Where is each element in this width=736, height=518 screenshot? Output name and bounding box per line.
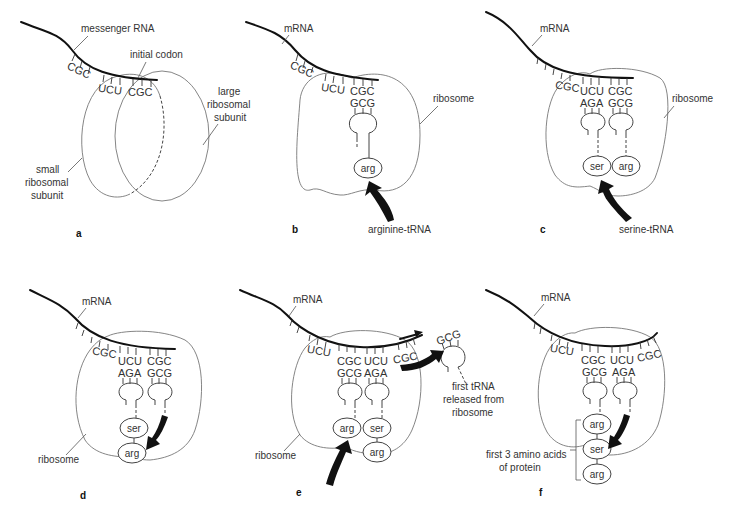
trna-arginine (583, 377, 607, 416)
panel-letter-b: b (292, 224, 298, 235)
transfer-arrow (608, 414, 630, 449)
label-mrna: mRNA (293, 294, 323, 305)
amino-acid-label: ser (370, 423, 385, 434)
incoming-arrow (326, 440, 352, 486)
trna-empty (148, 378, 172, 415)
mrna-strand (240, 290, 422, 347)
label-released-2: released from (443, 394, 504, 405)
label-serine-trna: serine-tRNA (619, 224, 674, 235)
protein-synthesis-diagram: CGC UCU CGC messenger RNA initial codon … (0, 0, 736, 518)
trna-arginine: arg (333, 378, 362, 438)
codon-3: UCU (610, 354, 634, 366)
trna-serine (613, 377, 637, 414)
amino-acid-label: arg (361, 163, 375, 174)
panel-e: UCU CGC UCU CGC GCG AGA arg ser arg (240, 290, 504, 498)
amino-acid-label: ser (590, 161, 605, 172)
label-protein-2: of protein (499, 462, 541, 473)
protein-bracket (570, 420, 581, 480)
label-large-subunit-3: subunit (214, 112, 246, 123)
label-large-subunit-2: ribosomal (207, 99, 250, 110)
anticodon-arg: GCG (147, 367, 172, 379)
incoming-arrow (365, 181, 394, 222)
codon-2: UCU (97, 82, 122, 97)
label-large-subunit-1: large (218, 86, 241, 97)
amino-acid-label: arg (340, 423, 354, 434)
amino-acid-label: arg (370, 447, 384, 458)
label-messenger-rna: messenger RNA (81, 23, 155, 34)
panel-letter-e: e (296, 487, 302, 498)
label-arginine-trna: arginine-tRNA (368, 224, 431, 235)
panel-a: CGC UCU CGC messenger RNA initial codon … (21, 22, 250, 239)
label-protein-1: first 3 amino acids (486, 449, 567, 460)
amino-acid-label: arg (590, 469, 604, 480)
codon-1: CGC (65, 60, 92, 81)
codon-2: CGC (337, 355, 362, 367)
amino-acid-label: arg (125, 448, 139, 459)
label-ribosome: ribosome (672, 93, 714, 104)
codon-2: UCU (118, 355, 142, 367)
label-released-3: ribosome (452, 407, 494, 418)
panel-letter-c: c (540, 224, 546, 235)
codon-2: UCU (580, 85, 604, 97)
codon-3: CGC (350, 85, 375, 97)
anticodon-arg: GCG (337, 367, 362, 379)
trna-serine: ser (581, 108, 611, 176)
codon-3: UCU (364, 355, 388, 367)
panel-d: CGC UCU CGC AGA GCG ser arg mRNA ribosom… (30, 290, 202, 501)
trna-serine: ser arg (363, 378, 391, 462)
protein-chain: arg ser arg (583, 414, 611, 484)
amino-acid-label: ser (590, 444, 605, 455)
codon-1: CGC (288, 59, 315, 80)
codon-1: UCU (549, 342, 575, 358)
label-mrna: mRNA (82, 296, 112, 307)
amino-acid-label: arg (590, 419, 604, 430)
mrna-ticks (537, 58, 627, 85)
transfer-arrow (146, 415, 168, 450)
codon-4: CGC (636, 347, 662, 364)
anticodon-ser: AGA (364, 367, 388, 379)
label-small-subunit-3: subunit (31, 190, 63, 201)
anticodon-ser: AGA (612, 366, 636, 378)
label-ribosome: ribosome (255, 450, 297, 461)
trna-serine: ser (119, 378, 148, 444)
small-subunit-hidden-edge (130, 96, 164, 194)
amino-acid-label: arg (619, 161, 633, 172)
codon-1: CGC (91, 344, 117, 360)
panel-letter-f: f (539, 487, 543, 498)
panel-f: UCU CGC UCU CGC GCG AGA arg ser (486, 290, 665, 498)
label-small-subunit-1: small (36, 164, 59, 175)
panel-c: CGC UCU CGC AGA GCG ser arg mRNA ribosom… (486, 12, 714, 235)
label-mrna: mRNA (540, 23, 570, 34)
label-released-1: first tRNA (452, 381, 495, 392)
label-mrna: mRNA (284, 23, 314, 34)
codon-1: CGC (554, 78, 580, 94)
anticodon-ser: AGA (118, 367, 142, 379)
mrna-strand (486, 290, 657, 346)
label-mrna: mRNA (541, 292, 571, 303)
anticodon-arg: GCG (608, 97, 633, 109)
label-small-subunit-2: ribosomal (25, 177, 68, 188)
label-initial-codon: initial codon (130, 49, 183, 60)
anticodon-arg: GCG (582, 366, 607, 378)
trna-arginine: arg (609, 108, 640, 176)
codon-2: CGC (581, 354, 606, 366)
trna-arginine: arg (349, 108, 382, 178)
label-ribosome: ribosome (433, 93, 475, 104)
panel-letter-a: a (76, 228, 82, 239)
codon-1: UCU (306, 343, 332, 359)
codon-3-initial: CGC (128, 86, 153, 98)
codon-2: UCU (320, 81, 345, 96)
panel-letter-d: d (80, 490, 86, 501)
panel-b: CGC UCU CGC GCG arg mRNA ribosome argini… (246, 22, 475, 235)
amino-acid-label: ser (127, 423, 142, 434)
codon-3: CGC (147, 355, 172, 367)
label-ribosome: ribosome (38, 454, 80, 465)
incoming-arrow (598, 180, 632, 222)
anticodon-ser: AGA (580, 97, 604, 109)
codon-3: CGC (608, 85, 633, 97)
anticodon-1: GCG (350, 97, 375, 109)
